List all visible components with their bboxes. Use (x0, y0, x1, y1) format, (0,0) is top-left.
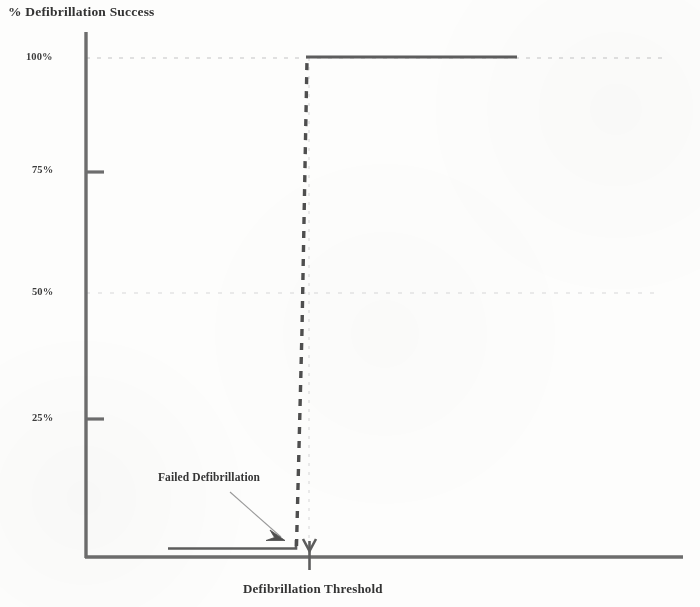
x-axis-title: Defibrillation Threshold (243, 581, 383, 597)
y-axis-title: % Defibrillation Success (8, 4, 155, 20)
y-axis-tick-label-75: 75% (32, 164, 53, 175)
y-axis-tick-label-25: 25% (32, 412, 53, 423)
y-axis-ticks (87, 172, 104, 419)
curve-segment-transition-dashed (297, 60, 308, 546)
threshold-marker (303, 539, 316, 570)
curve-segment-hook (288, 540, 296, 549)
y-axis-tick-label-100: 100% (26, 51, 53, 62)
defibrillation-success-chart: % Defibrillation Success 100% 75% 50% 25… (0, 0, 700, 607)
leader-line (230, 492, 281, 537)
annotation-failed-defibrillation: Failed Defibrillation (158, 471, 260, 483)
failed-defibrillation-leader (230, 492, 285, 541)
chart-plot-area (0, 0, 700, 607)
y-axis-tick-label-50: 50% (32, 286, 53, 297)
